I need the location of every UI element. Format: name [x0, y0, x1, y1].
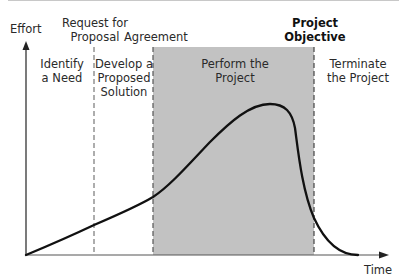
x-axis-label: Time: [364, 263, 392, 277]
x-axis-arrow-icon: [379, 252, 389, 259]
phase-develop-label: Develop a Proposed Solution: [94, 57, 154, 99]
phase-perform-label: Perform the Project: [195, 57, 275, 85]
y-axis-label: Effort: [10, 22, 41, 36]
milestone-rfp-label: Request for Proposal: [60, 16, 130, 44]
milestone-objective-label: Project Objective: [282, 16, 348, 44]
phase-terminate-label: Terminate the Project: [316, 57, 400, 85]
phase-identify-label: Identify a Need: [32, 57, 92, 85]
milestone-agreement-label: Agreement: [124, 30, 184, 44]
y-axis-arrow-icon: [23, 41, 30, 50]
